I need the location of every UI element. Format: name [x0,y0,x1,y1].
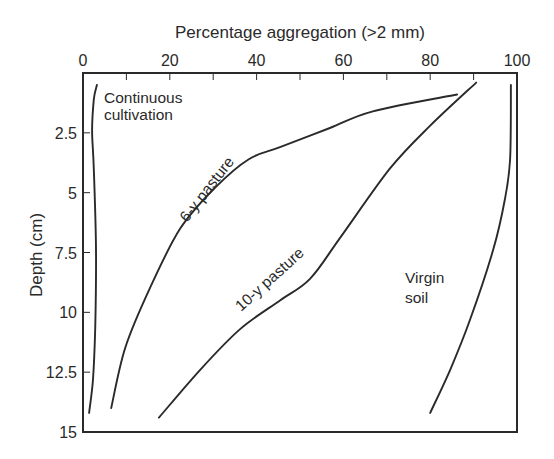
x-axis-title: Percentage aggregation (>2 mm) [175,23,425,42]
x-tick-label: 80 [421,52,439,69]
y-axis-title: Depth (cm) [27,213,46,297]
y-tick-label: 2.5 [55,125,77,142]
y-tick-label: 15 [59,424,77,441]
curve-virgin-soil [430,85,511,413]
label-virgin-soil-line2: soil [405,289,428,306]
curve-continuous-cultivation [89,85,97,413]
soil-aggregation-chart: Percentage aggregation (>2 mm) 020406080… [0,0,554,459]
label-virgin-soil: Virgin [405,269,444,286]
label-continuous-cultivation-line2: cultivation [104,106,173,123]
x-tick-label: 20 [161,52,179,69]
label-10y-pasture: 10-y pasture [232,244,307,314]
y-tick-label: 10 [59,304,77,321]
y-tick-label: 12.5 [46,364,77,381]
label-continuous-cultivation: Continuous [104,89,183,106]
y-tick-label: 5 [68,185,77,202]
x-tick-label: 100 [504,52,531,69]
label-6y-pasture: 6-y pasture [176,153,237,225]
x-tick-label: 40 [248,52,266,69]
x-tick-label: 0 [79,52,88,69]
x-tick-label: 60 [335,52,353,69]
y-tick-label: 7.5 [55,245,77,262]
curve-6-y-pasture [111,95,457,409]
x-axis-ticks: 020406080100 [79,52,531,80]
